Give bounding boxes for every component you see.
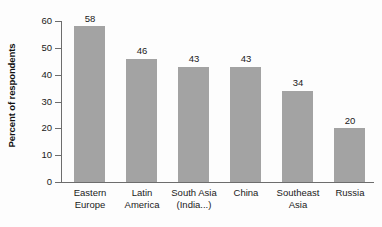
bar[interactable] (74, 26, 105, 182)
bar-value-label: 43 (168, 54, 220, 64)
y-axis-title: Percent of respondents (0, 0, 24, 190)
y-tick-mark (55, 155, 61, 156)
x-tick-label-line: (India...) (159, 199, 229, 211)
y-tick-label: 20 (12, 123, 52, 133)
x-tick-label-line: Asia (263, 199, 333, 211)
x-tick-label: Russia (315, 187, 382, 199)
y-tick-mark (55, 21, 61, 22)
y-axis-line (61, 21, 62, 183)
y-tick-label: 60 (12, 16, 52, 26)
bar-group[interactable]: 20 (324, 128, 376, 182)
bar[interactable] (126, 59, 157, 182)
y-tick-mark (55, 102, 61, 103)
bar-chart: Percent of respondents 0102030405060 584… (0, 0, 382, 227)
y-tick-mark (55, 182, 61, 183)
y-tick-mark (55, 75, 61, 76)
bar-value-label: 20 (324, 116, 376, 126)
bar-group[interactable]: 58 (64, 26, 116, 182)
bar[interactable] (334, 128, 365, 182)
bar-value-label: 43 (220, 54, 272, 64)
y-tick-mark (55, 48, 61, 49)
y-tick-label: 0 (12, 177, 52, 187)
x-tick-label-line: Russia (315, 187, 382, 199)
y-tick-label: 30 (12, 97, 52, 107)
y-tick-label: 40 (12, 70, 52, 80)
bar-value-label: 34 (272, 78, 324, 88)
bar[interactable] (230, 67, 261, 182)
bar-group[interactable]: 43 (220, 67, 272, 182)
x-axis-line (61, 182, 374, 183)
bar-group[interactable]: 46 (116, 59, 168, 182)
y-tick-label: 10 (12, 150, 52, 160)
bar[interactable] (178, 67, 209, 182)
bar-value-label: 58 (64, 14, 116, 24)
bar[interactable] (282, 91, 313, 182)
bar-group[interactable]: 34 (272, 91, 324, 182)
bar-value-label: 46 (116, 46, 168, 56)
bar-group[interactable]: 43 (168, 67, 220, 182)
y-tick-label: 50 (12, 43, 52, 53)
y-tick-mark (55, 128, 61, 129)
